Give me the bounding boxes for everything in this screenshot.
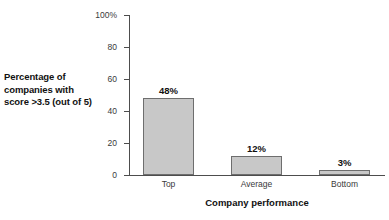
x-axis-line — [129, 175, 385, 176]
y-tick-label-80: 80 — [108, 42, 117, 52]
y-axis-title-line-3: score >3.5 (out of 5) — [4, 96, 108, 109]
x-axis-title: Company performance — [129, 197, 385, 208]
x-category-label-top: Top — [162, 179, 176, 189]
x-category-label-bottom: Bottom — [331, 179, 358, 189]
bar-value-top: 48% — [159, 85, 178, 96]
y-tick-label-20: 20 — [108, 138, 117, 148]
y-tick-label-40: 40 — [108, 106, 117, 116]
y-tick-100: 100% — [124, 15, 129, 16]
y-tick-label-60: 60 — [108, 74, 117, 84]
y-axis-title-line-1: Percentage of — [4, 71, 108, 84]
y-axis-line — [129, 15, 130, 176]
y-tick-label-100: 100% — [95, 10, 117, 20]
y-tick-20: 20 — [124, 143, 129, 144]
y-tick-80: 80 — [124, 47, 129, 48]
bar-value-average: 12% — [247, 143, 266, 154]
bar-value-bottom: 3% — [338, 157, 352, 168]
bar-bottom: 3% — [319, 170, 370, 175]
y-tick-0: 0 — [124, 175, 129, 176]
bar-chart-figure: Percentage of companies with score >3.5 … — [0, 0, 389, 220]
plot-area: 100% 80 60 40 20 0 48% 12% 3% Top Averag… — [129, 15, 385, 176]
bar-average: 12% — [231, 156, 282, 175]
y-axis-title: Percentage of companies with score >3.5 … — [4, 71, 108, 109]
y-axis-title-line-2: companies with — [4, 84, 108, 97]
y-tick-60: 60 — [124, 79, 129, 80]
bar-top: 48% — [143, 98, 194, 175]
y-tick-label-0: 0 — [112, 170, 117, 180]
y-tick-40: 40 — [124, 111, 129, 112]
x-category-label-average: Average — [241, 179, 273, 189]
